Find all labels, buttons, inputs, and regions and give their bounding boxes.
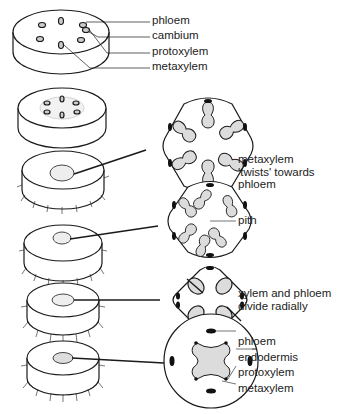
note-twist: metaxylem 'twists' towards phloem [238, 153, 315, 191]
root-disc-4 [19, 225, 158, 288]
label-metaxylem-top: metaxylem [152, 60, 208, 73]
label-cambium-top: cambium [152, 29, 199, 42]
note-divide-line-2: divide radially [238, 300, 331, 313]
label-endodermis: endodermis [238, 351, 298, 364]
root-disc-3 [17, 150, 146, 214]
root-disc-6 [21, 341, 164, 402]
note-divide: xylem and phloem divide radially [238, 287, 331, 312]
stem-disc-1 [13, 10, 150, 74]
label-pith: pith [238, 214, 257, 227]
note-twist-line-3: phloem [238, 178, 315, 191]
root-disc-5 [21, 283, 160, 343]
label-phloem-top: phloem [152, 14, 190, 27]
note-divide-line-1: xylem and phloem [238, 287, 331, 300]
label-metaxylem-bottom: metaxylem [238, 382, 294, 395]
note-twist-line-1: metaxylem [238, 153, 315, 166]
note-twist-line-2: 'twists' towards [238, 166, 315, 179]
label-protoxylem-bottom: protoxylem [238, 366, 294, 379]
label-protoxylem-top: protoxylem [152, 45, 208, 58]
label-phloem-bottom: phloem [238, 335, 276, 348]
stem-disc-2 [18, 88, 106, 148]
